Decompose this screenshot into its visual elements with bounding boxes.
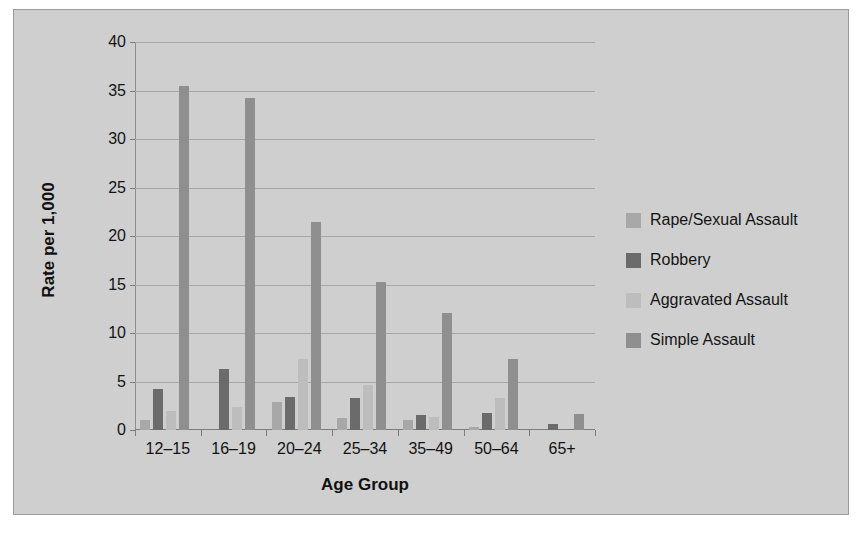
chart-figure: Rate per 1,000 0510152025303540 12–1516–… <box>13 9 849 515</box>
bar <box>442 313 452 430</box>
bar <box>232 407 242 430</box>
bar <box>495 398 505 430</box>
bar <box>285 397 295 430</box>
bar <box>245 98 255 430</box>
x-tick-label: 25–34 <box>343 440 388 458</box>
bar <box>153 389 163 430</box>
y-tick-label: 40 <box>108 33 126 51</box>
x-tick-mark <box>595 430 596 436</box>
bar <box>311 222 321 430</box>
legend-item[interactable]: Rape/Sexual Assault <box>626 200 841 240</box>
x-axis-title: Age Group <box>135 475 595 495</box>
x-tick-mark <box>529 430 530 436</box>
plot-area: 0510152025303540 12–1516–1920–2425–3435–… <box>135 42 595 430</box>
bar <box>376 282 386 430</box>
bar-group <box>135 42 201 430</box>
legend-item[interactable]: Simple Assault <box>626 320 841 360</box>
x-tick-label: 65+ <box>549 440 576 458</box>
bar-group <box>398 42 464 430</box>
bar <box>140 420 150 430</box>
bar-group <box>464 42 530 430</box>
bar <box>548 424 558 430</box>
x-tick-mark <box>201 430 202 436</box>
bar-group <box>332 42 398 430</box>
bar-group <box>201 42 267 430</box>
y-tick-label: 35 <box>108 82 126 100</box>
legend-label: Simple Assault <box>650 331 755 349</box>
y-axis-title-label: Rate per 1,000 <box>39 182 59 297</box>
bar <box>272 402 282 430</box>
x-tick-label: 16–19 <box>211 440 256 458</box>
x-tick-label: 12–15 <box>146 440 191 458</box>
bar <box>429 417 439 430</box>
y-axis-title: Rate per 1,000 <box>36 110 62 370</box>
y-tick-label: 10 <box>108 324 126 342</box>
x-tick-mark <box>398 430 399 436</box>
legend-item[interactable]: Robbery <box>626 240 841 280</box>
x-tick-mark <box>464 430 465 436</box>
y-tick-label: 25 <box>108 179 126 197</box>
bars-layer <box>135 42 595 430</box>
y-tick-label: 20 <box>108 227 126 245</box>
x-tick-mark <box>135 430 136 436</box>
x-tick-label: 35–49 <box>408 440 453 458</box>
y-tick-label: 0 <box>117 421 126 439</box>
x-tick-label: 50–64 <box>474 440 519 458</box>
x-tick-mark <box>266 430 267 436</box>
bar <box>416 415 426 430</box>
bar <box>298 359 308 430</box>
y-tick-label: 30 <box>108 130 126 148</box>
x-tick-label: 20–24 <box>277 440 322 458</box>
bar-group <box>266 42 332 430</box>
bar <box>469 427 479 430</box>
legend-swatch-icon <box>626 253 641 268</box>
y-tick-label: 15 <box>108 276 126 294</box>
bar <box>363 385 373 430</box>
bar-group <box>529 42 595 430</box>
bar <box>166 411 176 430</box>
bar <box>574 414 584 430</box>
bar <box>350 398 360 430</box>
legend-label: Rape/Sexual Assault <box>650 211 798 229</box>
bar <box>482 413 492 430</box>
bar <box>508 359 518 430</box>
legend-swatch-icon <box>626 213 641 228</box>
y-tick-label: 5 <box>117 373 126 391</box>
bar <box>219 369 229 430</box>
x-tick-mark <box>332 430 333 436</box>
legend-label: Robbery <box>650 251 710 269</box>
bar <box>403 420 413 430</box>
bar <box>179 86 189 430</box>
chart-legend: Rape/Sexual AssaultRobberyAggravated Ass… <box>626 200 841 360</box>
legend-label: Aggravated Assault <box>650 291 788 309</box>
legend-swatch-icon <box>626 333 641 348</box>
bar <box>337 418 347 430</box>
legend-swatch-icon <box>626 293 641 308</box>
legend-item[interactable]: Aggravated Assault <box>626 280 841 320</box>
